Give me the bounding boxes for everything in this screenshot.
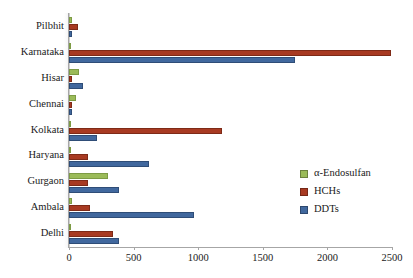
category-label: Chennai [0,99,64,110]
value-axis-line [68,247,393,248]
bar-endo [69,121,71,127]
bar-endo [69,224,71,230]
bar-endo [69,17,72,23]
category-label: Ambala [0,202,64,213]
value-axis-tick [327,247,328,250]
value-axis-tick [392,247,393,250]
category-label: Delhi [0,228,64,239]
bar-ddt [69,187,119,193]
value-axis-tick-label: 2500 [382,252,403,263]
bar-ddt [69,161,149,167]
bar-ddt [69,238,119,244]
value-axis-tick-label: 2000 [317,252,338,263]
bar-group [69,40,392,66]
bar-group [69,14,392,40]
category-label: Haryana [0,150,64,161]
bar-endo [69,147,71,153]
chart-legend: α-EndosulfanHCHsDDTs [300,168,410,222]
bar-ddt [69,109,72,115]
bar-ddt [69,83,83,89]
bar-endo [69,95,76,101]
bar-hch [69,231,113,237]
category-label: Karnataka [0,47,64,58]
category-label: Hisar [0,73,64,84]
bar-ddt [69,135,97,141]
value-axis-tick-label: 1000 [188,252,209,263]
bar-hch [69,128,222,134]
bar-group [69,118,392,144]
bar-hch [69,205,90,211]
bar-hch [69,154,88,160]
value-axis-tick-label: 0 [66,252,71,263]
bar-hch [69,76,72,82]
value-axis-tick [69,247,70,250]
bar-ddt [69,57,295,63]
bar-ddt [69,212,194,218]
value-axis-tick [134,247,135,250]
value-axis-tick [263,247,264,250]
value-axis-tick [198,247,199,250]
category-label: Gurgaon [0,176,64,187]
legend-label: DDTs [314,204,339,215]
bar-ddt [69,31,72,37]
legend-item: DDTs [300,204,410,215]
bar-group [69,66,392,92]
legend-swatch-hch-icon [300,188,308,196]
category-label: Kolkata [0,125,64,136]
bar-group [69,221,392,247]
bar-endo [69,198,72,204]
bar-endo [69,43,71,49]
bar-group [69,92,392,118]
bar-endo [69,69,79,75]
bar-endo [69,173,108,179]
legend-label: α-Endosulfan [314,168,371,179]
bar-hch [69,180,88,186]
category-axis-labels: PilbhitKarnatakaHisarChennaiKolkataHarya… [0,14,64,247]
value-axis-tick-label: 500 [126,252,142,263]
bar-group [69,143,392,169]
legend-label: HCHs [314,186,340,197]
legend-swatch-endo-icon [300,170,308,178]
legend-item: HCHs [300,186,410,197]
bar-hch [69,24,78,30]
bar-hch [69,50,391,56]
bar-chart: PilbhitKarnatakaHisarChennaiKolkataHarya… [0,0,413,278]
value-axis-tick-label: 1500 [252,252,273,263]
bar-hch [69,102,72,108]
legend-swatch-ddt-icon [300,206,308,214]
category-label: Pilbhit [0,21,64,32]
legend-item: α-Endosulfan [300,168,410,179]
